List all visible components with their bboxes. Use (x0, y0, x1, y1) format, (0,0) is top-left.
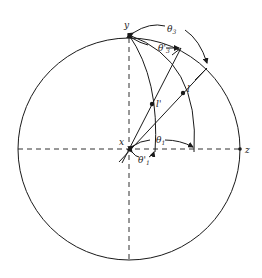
label-x: x (119, 137, 124, 147)
label-z: z (244, 145, 250, 155)
label-y: y (123, 20, 130, 30)
stereographic-diagram: y x z l l' θ3 θ'3 θ1 θ'1 (0, 0, 262, 278)
label-l: l (187, 84, 190, 94)
chord-y-to-x (129, 35, 150, 95)
trace-tick-l (195, 68, 207, 80)
label-l-prime: l' (156, 99, 161, 109)
point-z (238, 147, 242, 151)
label-theta1-prime: θ'1 (138, 155, 150, 166)
label-theta1: θ1 (156, 135, 165, 146)
point-l-prime (150, 102, 154, 106)
point-l (181, 91, 185, 95)
great-circle-arc-inner (129, 35, 156, 152)
point-y (127, 33, 131, 37)
label-theta3: θ3 (167, 24, 176, 35)
